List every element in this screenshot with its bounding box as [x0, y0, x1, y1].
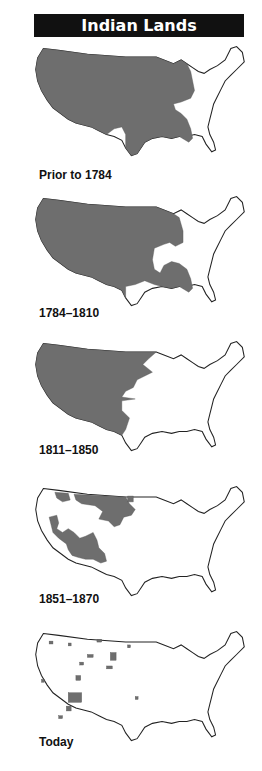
map-panel-prior-1784: Prior to 1784 — [0, 40, 262, 190]
us-map — [30, 190, 250, 315]
map-title: Indian Lands — [34, 14, 244, 37]
map-panel-1851-1870: 1851–1870 — [0, 480, 262, 630]
map-panel-1784-1810: 1784–1810 — [0, 190, 262, 340]
period-label: 1851–1870 — [39, 592, 99, 606]
period-label: 1811–1850 — [39, 443, 98, 457]
us-map — [30, 625, 250, 750]
period-label: Today — [39, 735, 73, 749]
period-label: 1784–1810 — [39, 306, 99, 320]
us-map — [30, 480, 250, 605]
us-map — [30, 335, 250, 460]
period-label: Prior to 1784 — [39, 168, 112, 182]
map-panel-today: Today — [0, 625, 262, 771]
us-map — [30, 40, 250, 165]
map-panel-1811-1850: 1811–1850 — [0, 335, 262, 485]
